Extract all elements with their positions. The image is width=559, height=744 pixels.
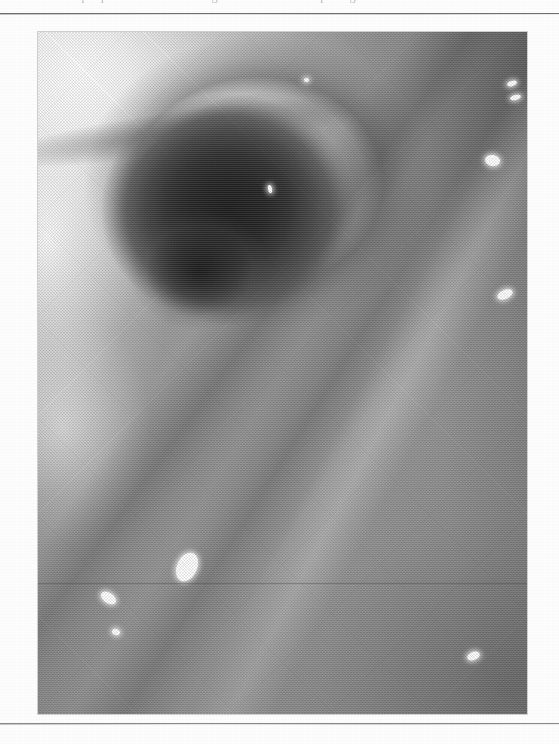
photo-base-tone-layer	[38, 32, 527, 714]
photo-right-wall-shading-layer	[38, 32, 527, 714]
photo-top-fold-band-layer	[38, 32, 527, 714]
photo-diagonal-fold-2-layer	[38, 32, 527, 714]
horizontal-rule-bottom	[0, 723, 559, 724]
highlight-top-right-b	[509, 94, 521, 102]
highlight-upper-edge	[304, 78, 309, 82]
photo-cavity-rim-layer	[38, 32, 527, 714]
photo-dark-cavity-layer	[38, 32, 527, 714]
highlight-left-small	[111, 628, 121, 636]
figure-caption-text: of a plaque is seen in the margin of the…	[58, 0, 498, 3]
highlight-center-low	[172, 550, 202, 586]
photo-left-sheen-layer	[38, 32, 527, 714]
photo-halftone-screen-layer	[38, 32, 527, 714]
highlight-right-low	[496, 287, 514, 302]
scanner-seam-line	[38, 583, 527, 584]
scanned-page: of a plaque is seen in the margin of the…	[0, 0, 559, 744]
highlight-top-right-a	[507, 79, 518, 87]
photo-diagonal-ridge-layer	[38, 32, 527, 714]
endoscopic-photograph	[38, 32, 527, 714]
highlight-right-bottom	[466, 650, 481, 662]
photo-vignette-layer	[38, 32, 527, 714]
highlight-cavity-fleck	[267, 185, 273, 194]
photo-cavity-inner-pocket-layer	[38, 32, 527, 714]
photo-bottom-mucosa-layer	[38, 32, 527, 714]
page-caption-strip: of a plaque is seen in the margin of the…	[0, 0, 559, 13]
photo-diagonal-fold-1-layer	[38, 32, 527, 714]
highlight-right-mid	[484, 153, 501, 166]
photo-halftone-screen-layer-2	[38, 32, 527, 714]
highlight-left-low	[99, 589, 119, 607]
horizontal-rule-top	[0, 13, 559, 14]
